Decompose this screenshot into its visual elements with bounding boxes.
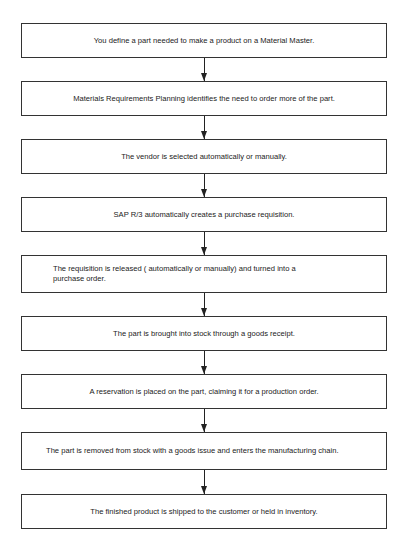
step-5-box: The requisition is released ( automatica… <box>21 255 387 293</box>
step-8-text: The part is removed from stock with a go… <box>46 446 339 456</box>
arrow-7-8-icon <box>204 409 205 432</box>
step-5-text: The requisition is released ( automatica… <box>53 264 326 284</box>
arrow-4-5-icon <box>204 232 205 255</box>
step-4-text: SAP R/3 automatically creates a purchase… <box>114 210 295 220</box>
step-8-box: The part is removed from stock with a go… <box>21 432 387 470</box>
step-2-text: Materials Requirements Planning identifi… <box>73 94 335 104</box>
step-4-box: SAP R/3 automatically creates a purchase… <box>21 197 387 232</box>
arrow-3-4-icon <box>204 174 205 197</box>
arrow-6-7-icon <box>204 351 205 374</box>
step-2-box: Materials Requirements Planning identifi… <box>21 81 387 116</box>
step-3-box: The vendor is selected automatically or … <box>21 139 387 174</box>
arrow-8-9-icon <box>204 470 205 494</box>
step-6-box: The part is brought into stock through a… <box>21 316 387 351</box>
arrow-1-2-icon <box>204 58 205 81</box>
arrow-5-6-icon <box>204 293 205 316</box>
step-1-text: You define a part needed to make a produ… <box>94 36 315 46</box>
step-7-box: A reservation is placed on the part, cla… <box>21 374 387 409</box>
step-7-text: A reservation is placed on the part, cla… <box>89 387 318 397</box>
arrow-2-3-icon <box>204 116 205 139</box>
step-6-text: The part is brought into stock through a… <box>113 329 295 339</box>
step-9-text: The finished product is shipped to the c… <box>90 507 317 517</box>
step-9-box: The finished product is shipped to the c… <box>21 494 387 529</box>
step-3-text: The vendor is selected automatically or … <box>121 152 287 162</box>
step-1-box: You define a part needed to make a produ… <box>21 23 387 58</box>
